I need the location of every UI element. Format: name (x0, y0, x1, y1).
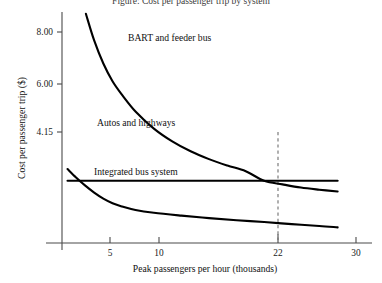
y-tick-label-6: 6.00 (37, 79, 54, 89)
x-tick-label-5: 5 (108, 248, 113, 258)
figure-container: Figure: Cost per passenger trip by syste… (0, 0, 382, 283)
figure-title: Figure: Cost per passenger trip by syste… (112, 0, 270, 6)
x-tick-label-10: 10 (154, 248, 164, 258)
y-tick-label-8: 8.00 (37, 27, 54, 37)
series-label-integrated-bus-system: Integrated bus system (94, 166, 178, 177)
series-label-bart-and-feeder-bus: BART and feeder bus (128, 32, 211, 43)
x-axis-title: Peak passengers per hour (thousands) (133, 263, 277, 275)
series-label-autos-and-highways: Autos and highways (97, 117, 176, 128)
x-tick-label-22: 22 (273, 248, 283, 258)
y-tick-label-415: 4.15 (37, 127, 54, 137)
cost-per-trip-chart: Figure: Cost per passenger trip by syste… (0, 0, 382, 283)
y-axis-title: Cost per passenger trip ($) (16, 77, 28, 179)
x-tick-label-30: 30 (351, 248, 361, 258)
